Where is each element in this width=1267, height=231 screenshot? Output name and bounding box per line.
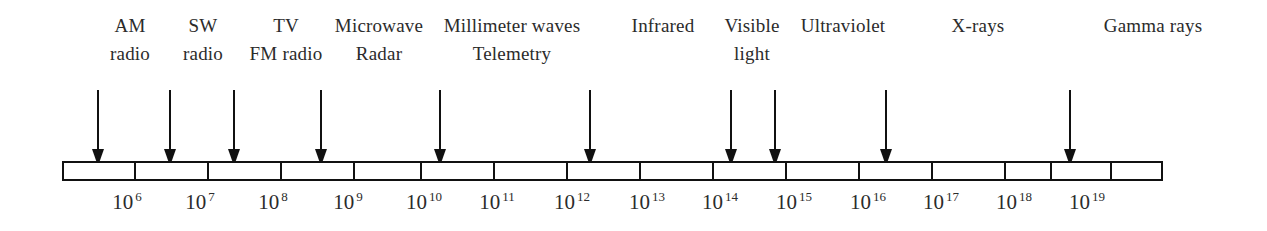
tick-exponent: 19 [1092,189,1105,204]
band-label-line2: Telemetry [444,40,581,68]
arrow-am-radio [91,90,105,166]
band-label-line1: Millimeter waves [444,12,581,40]
band-label-sw-radio: SWradio [183,12,223,68]
arrow-shaft [97,90,99,150]
band-label-visible-light: Visiblelight [724,12,779,68]
arrow-shaft [1069,90,1071,150]
bar-divider [639,163,641,179]
band-label-line2: FM radio [250,40,323,68]
bar-divider [785,163,787,179]
band-label-line1: X-rays [952,12,1005,40]
tick-exponent: 18 [1019,189,1032,204]
axis-tick-label-10e11: 1011 [479,190,515,214]
tick-base: 10 [1069,190,1090,214]
tick-exponent: 10 [429,189,442,204]
axis-tick-label-10e18: 1018 [996,190,1032,214]
tick-exponent: 14 [725,189,738,204]
tick-base: 10 [629,190,650,214]
arrow-shaft [885,90,887,150]
band-label-ultraviolet: Ultraviolet [801,12,886,40]
tick-exponent: 9 [356,189,363,204]
tick-base: 10 [185,190,206,214]
axis-tick-label-10e13: 1013 [629,190,665,214]
axis-tick-label-10e15: 1015 [776,190,812,214]
arrow-ultraviolet [768,90,782,166]
band-label-infrared: Infrared [632,12,695,40]
band-label-line1: SW [183,12,223,40]
tick-base: 10 [258,190,279,214]
arrow-shaft [320,90,322,150]
arrow-shaft [589,90,591,150]
band-label-am-radio: AMradio [110,12,150,68]
axis-tick-label-10e6: 106 [112,190,142,214]
arrow-gamma-rays [1063,90,1077,166]
band-label-line1: Ultraviolet [801,12,886,40]
arrow-visible-light [724,90,738,166]
arrow-shaft [233,90,235,150]
axis-tick-label-10e8: 108 [258,190,288,214]
tick-exponent: 15 [799,189,812,204]
tick-exponent: 16 [873,189,886,204]
electromagnetic-spectrum-figure: AMradioSWradioTVFM radioMicrowaveRadarMi… [0,0,1267,231]
tick-exponent: 6 [135,189,142,204]
axis-tick-label-10e7: 107 [185,190,215,214]
axis-tick-label-10e17: 1017 [923,190,959,214]
axis-tick-label-10e16: 1016 [850,190,886,214]
tick-base: 10 [850,190,871,214]
tick-exponent: 11 [502,189,515,204]
tick-exponent: 7 [208,189,215,204]
bar-divider [1004,163,1006,179]
bar-divider [493,163,495,179]
band-label-gamma-rays: Gamma rays [1104,12,1203,40]
axis-tick-label-10e14: 1014 [702,190,738,214]
band-label-line1: Microwave [335,12,423,40]
tick-exponent: 17 [946,189,959,204]
arrow-shaft [169,90,171,150]
bar-divider [858,163,860,179]
band-label-line1: Gamma rays [1104,12,1203,40]
tick-base: 10 [554,190,575,214]
band-label-line1: Visible [724,12,779,40]
axis-tick-label-10e12: 1012 [554,190,590,214]
tick-base: 10 [996,190,1017,214]
axis-tick-label-10e9: 109 [333,190,363,214]
arrow-x-rays [879,90,893,166]
arrow-millimeter-waves-telemetry [433,90,447,166]
bar-divider [280,163,282,179]
tick-base: 10 [776,190,797,214]
tick-base: 10 [479,190,500,214]
band-label-line2: radio [183,40,223,68]
tick-base: 10 [406,190,427,214]
tick-exponent: 13 [652,189,665,204]
axis-tick-label-10e19: 1019 [1069,190,1105,214]
bar-divider [931,163,933,179]
arrow-shaft [730,90,732,150]
band-label-line1: AM [110,12,150,40]
tick-base: 10 [702,190,723,214]
band-label-tv-fm-radio: TVFM radio [250,12,323,68]
band-label-line1: Infrared [632,12,695,40]
band-label-microwave-radar: MicrowaveRadar [335,12,423,68]
arrow-shaft [774,90,776,150]
arrow-shaft [439,90,441,150]
arrow-sw-radio [163,90,177,166]
arrow-microwave-radar [314,90,328,166]
arrow-tv-fm-radio [227,90,241,166]
band-label-line2: radio [110,40,150,68]
arrow-infrared [583,90,597,166]
tick-base: 10 [333,190,354,214]
band-label-x-rays: X-rays [952,12,1005,40]
band-label-line1: TV [250,12,323,40]
bar-divider [1110,163,1112,179]
tick-base: 10 [923,190,944,214]
tick-exponent: 12 [577,189,590,204]
bar-divider [1050,163,1052,179]
band-label-millimeter-waves-telemetry: Millimeter wavesTelemetry [444,12,581,68]
axis-tick-label-10e10: 1010 [406,190,442,214]
band-label-line2: Radar [335,40,423,68]
spectrum-bar [62,161,1163,181]
bar-divider [207,163,209,179]
bar-divider [712,163,714,179]
tick-exponent: 8 [281,189,288,204]
tick-base: 10 [112,190,133,214]
